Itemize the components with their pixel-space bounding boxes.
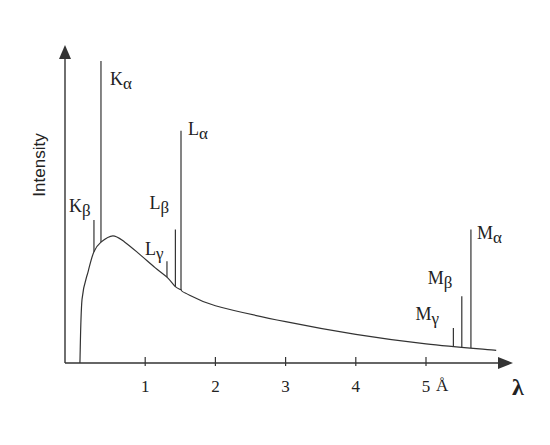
continuum-curve bbox=[80, 236, 496, 363]
axes bbox=[59, 45, 513, 369]
x-tick-label: 3 bbox=[281, 377, 290, 397]
peak-label: Lγ bbox=[145, 239, 164, 260]
x-tick-label: 1 bbox=[141, 377, 150, 397]
peak-label: Mβ bbox=[428, 268, 453, 289]
peak-label: Mγ bbox=[415, 304, 439, 325]
peak-label: Kβ bbox=[69, 196, 91, 217]
peak-label: Kα bbox=[110, 69, 132, 90]
peak-label: Lα bbox=[188, 119, 208, 140]
peak-label: Lβ bbox=[149, 193, 169, 214]
x-tick-label: 5 bbox=[422, 377, 431, 397]
peak-label: Mα bbox=[477, 223, 502, 244]
y-axis-label: Intensity bbox=[30, 133, 50, 196]
x-tick-label: 2 bbox=[211, 377, 220, 397]
x-tick-label: 4 bbox=[352, 377, 361, 397]
x-unit-label: Å bbox=[436, 376, 448, 396]
spectrum-chart bbox=[0, 0, 550, 445]
x-ticks bbox=[145, 357, 426, 366]
x-axis-label: λ bbox=[512, 374, 524, 401]
